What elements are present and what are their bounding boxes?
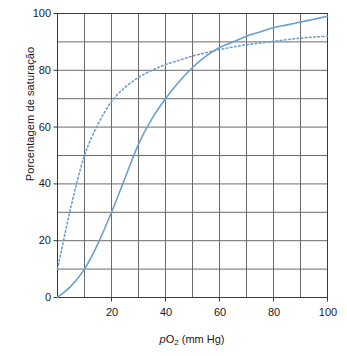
- chart-figure: Porcentagem de saturação pO2 (mm Hg) 100…: [0, 0, 347, 356]
- gridlines: [58, 14, 328, 298]
- plot-area: [0, 0, 347, 356]
